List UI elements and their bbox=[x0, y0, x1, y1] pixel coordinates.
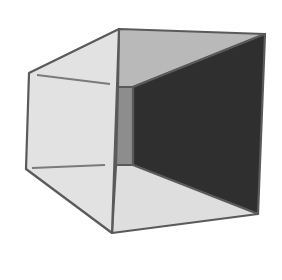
box-diagram bbox=[0, 0, 282, 280]
figure-canvas bbox=[0, 0, 282, 280]
back-wall-face bbox=[116, 87, 133, 165]
